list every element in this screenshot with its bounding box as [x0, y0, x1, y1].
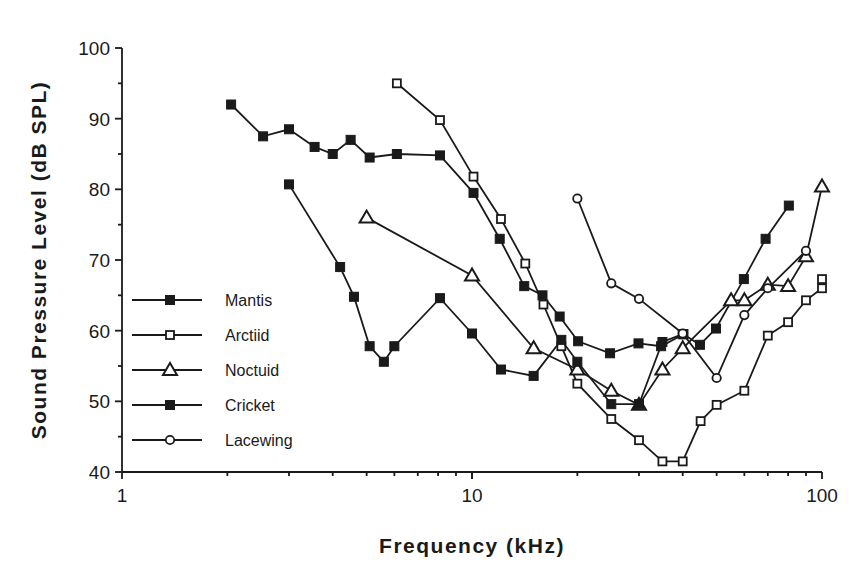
open-triangle-marker-icon	[737, 293, 751, 305]
open-square-marker-icon	[436, 116, 444, 124]
legend-item-lacewing: Lacewing	[132, 432, 293, 449]
x-tick-label: 10	[461, 485, 482, 506]
legend-item-arctiid: Arctiid	[132, 327, 269, 344]
filled-square-marker-icon	[259, 132, 268, 141]
open-square-marker-icon	[784, 318, 792, 326]
open-square-marker-icon	[679, 457, 687, 465]
open-circle-marker-icon	[740, 311, 748, 319]
filled-square-marker-icon	[346, 135, 355, 144]
open-circle-marker-icon	[635, 295, 643, 303]
sound-pressure-chart: 405060708090100110100 MantisArctiidNoctu…	[0, 0, 857, 582]
open-square-marker-icon	[802, 296, 810, 304]
open-square-marker-icon	[635, 436, 643, 444]
open-circle-marker-icon	[607, 279, 615, 287]
y-tick-label: 100	[78, 38, 110, 59]
open-square-marker-icon	[539, 301, 547, 309]
series-line	[289, 184, 683, 404]
filled-square-marker-icon	[529, 371, 538, 380]
filled-square-marker-icon	[166, 296, 175, 305]
filled-square-marker-icon	[607, 400, 616, 409]
filled-square-marker-icon	[166, 401, 175, 410]
filled-square-marker-icon	[310, 142, 319, 151]
open-circle-marker-icon	[764, 284, 772, 292]
filled-square-marker-icon	[469, 188, 478, 197]
legend-item-cricket: Cricket	[132, 397, 275, 414]
open-square-marker-icon	[764, 332, 772, 340]
filled-square-marker-icon	[227, 100, 236, 109]
open-triangle-marker-icon	[724, 293, 738, 305]
open-square-marker-icon	[166, 331, 174, 339]
filled-square-marker-icon	[695, 340, 704, 349]
filled-square-marker-icon	[574, 337, 583, 346]
legend: MantisArctiidNoctuidCricketLacewing	[132, 292, 293, 449]
legend-label: Cricket	[225, 397, 275, 414]
x-tick-label: 100	[806, 485, 838, 506]
y-axis-title: Sound Pressure Level (dB SPL)	[27, 81, 50, 440]
series-line	[367, 187, 822, 405]
filled-square-marker-icon	[761, 234, 770, 243]
filled-square-marker-icon	[606, 349, 615, 358]
filled-square-marker-icon	[379, 357, 388, 366]
filled-square-marker-icon	[284, 125, 293, 134]
y-tick-label: 50	[89, 391, 110, 412]
y-tick-label: 70	[89, 250, 110, 271]
filled-square-marker-icon	[435, 294, 444, 303]
open-circle-marker-icon	[712, 374, 720, 382]
open-triangle-marker-icon	[815, 180, 829, 192]
open-triangle-marker-icon	[163, 363, 177, 375]
open-square-marker-icon	[573, 380, 581, 388]
open-square-marker-icon	[713, 401, 721, 409]
x-tick-label: 1	[117, 485, 128, 506]
open-circle-marker-icon	[166, 436, 174, 444]
filled-square-marker-icon	[573, 357, 582, 366]
open-square-marker-icon	[607, 415, 615, 423]
filled-square-marker-icon	[739, 275, 748, 284]
y-tick-label: 80	[89, 179, 110, 200]
y-tick-label: 90	[89, 109, 110, 130]
open-triangle-marker-icon	[604, 384, 618, 396]
axes	[115, 48, 822, 479]
filled-square-marker-icon	[365, 342, 374, 351]
open-circle-marker-icon	[679, 329, 687, 337]
series-noctuid	[360, 180, 829, 410]
x-axis-title: Frequency (kHz)	[379, 534, 565, 557]
filled-square-marker-icon	[435, 151, 444, 160]
filled-square-marker-icon	[349, 292, 358, 301]
open-square-marker-icon	[658, 457, 666, 465]
legend-item-mantis: Mantis	[132, 292, 272, 309]
open-square-marker-icon	[393, 79, 401, 87]
open-square-marker-icon	[697, 417, 705, 425]
filled-square-marker-icon	[784, 201, 793, 210]
filled-square-marker-icon	[634, 400, 643, 409]
open-triangle-marker-icon	[360, 211, 374, 223]
filled-square-marker-icon	[555, 312, 564, 321]
filled-square-marker-icon	[712, 324, 721, 333]
legend-item-noctuid: Noctuid	[132, 362, 279, 379]
legend-label: Noctuid	[225, 362, 279, 379]
open-triangle-marker-icon	[465, 269, 479, 281]
open-circle-marker-icon	[802, 247, 810, 255]
open-square-marker-icon	[497, 215, 505, 223]
filled-square-marker-icon	[468, 329, 477, 338]
series-line	[231, 105, 789, 354]
tick-labels: 405060708090100110100	[78, 38, 838, 506]
legend-label: Lacewing	[225, 432, 293, 449]
filled-square-marker-icon	[284, 180, 293, 189]
open-square-marker-icon	[470, 173, 478, 181]
series-layer	[227, 79, 829, 465]
y-tick-label: 40	[89, 462, 110, 483]
open-square-marker-icon	[818, 284, 826, 292]
open-square-marker-icon	[818, 275, 826, 283]
filled-square-marker-icon	[557, 335, 566, 344]
filled-square-marker-icon	[365, 153, 374, 162]
filled-square-marker-icon	[495, 234, 504, 243]
filled-square-marker-icon	[392, 150, 401, 159]
legend-label: Arctiid	[225, 327, 269, 344]
filled-square-marker-icon	[496, 365, 505, 374]
filled-square-marker-icon	[390, 342, 399, 351]
filled-square-marker-icon	[328, 150, 337, 159]
filled-square-marker-icon	[520, 282, 529, 291]
open-square-marker-icon	[521, 260, 529, 268]
filled-square-marker-icon	[634, 339, 643, 348]
filled-square-marker-icon	[658, 337, 667, 346]
